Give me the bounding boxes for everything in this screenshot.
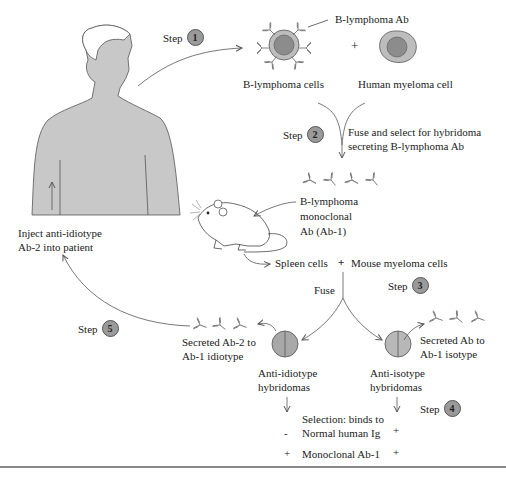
anti-idiotype-hybridoma-cell bbox=[272, 331, 298, 357]
secreted-isotype-line2: Ab-1 isotype bbox=[420, 348, 477, 361]
selection-heading: Selection: binds to bbox=[302, 413, 384, 426]
plus-sign-spleen: + bbox=[338, 256, 344, 269]
step-label: Step bbox=[163, 32, 183, 44]
human-myeloma-cell-label: Human myeloma cell bbox=[358, 78, 453, 91]
mouse-myeloma-label: Mouse myeloma cells bbox=[351, 257, 448, 270]
fuse-label: Fuse bbox=[314, 284, 335, 297]
patient-instruction-line1: Inject anti-idiotype bbox=[18, 227, 102, 240]
bottom-divider bbox=[0, 466, 506, 468]
monoclonal-line1: B-lymphoma bbox=[300, 195, 358, 208]
fuse-select-line2: secreting B-lymphoma Ab bbox=[348, 140, 464, 153]
anti-idiotype-line1: Anti-idiotype bbox=[258, 367, 317, 380]
secreted-ab2-line2: Ab-1 idiotype bbox=[182, 350, 243, 363]
hybridoma-anti-idiotype-diagram: Step 1 B-lymphoma Ab + B-lymphoma cells … bbox=[0, 0, 506, 479]
step-3: Step 3 bbox=[388, 277, 429, 294]
b-lymphoma-cell bbox=[257, 20, 328, 70]
anti-isotype-line1: Anti-isotype bbox=[370, 367, 425, 380]
anti-isotype-line2: hybridomas bbox=[370, 381, 422, 394]
fuse-select-line1: Fuse and select for hybridoma bbox=[348, 126, 481, 139]
patient-instruction-line2: Ab-2 into patient bbox=[18, 241, 93, 254]
step-number-badge: 4 bbox=[444, 400, 461, 417]
selection-row1-left: - bbox=[284, 427, 288, 440]
step-5: Step 5 bbox=[78, 320, 119, 337]
monoclonal-line3: Ab (Ab-1) bbox=[300, 225, 346, 238]
ab2-antibodies bbox=[193, 317, 248, 334]
patient-figure bbox=[32, 25, 180, 215]
secreted-ab2-line1: Secreted Ab-2 to bbox=[182, 336, 256, 349]
step-label: Step bbox=[420, 403, 440, 415]
b-lymphoma-cells-label: B-lymphoma cells bbox=[243, 78, 324, 91]
isotype-antibodies bbox=[429, 310, 486, 327]
monoclonal-line2: monoclonal bbox=[300, 210, 352, 223]
step-2: Step 2 bbox=[283, 126, 324, 143]
step-label: Step bbox=[78, 323, 98, 335]
selection-row2-left: + bbox=[284, 447, 290, 460]
anti-idiotype-line2: hybridomas bbox=[258, 381, 310, 394]
selection-row2-right: + bbox=[393, 446, 399, 459]
step-label: Step bbox=[388, 280, 408, 292]
step-4: Step 4 bbox=[420, 400, 461, 417]
human-myeloma-cell bbox=[380, 31, 417, 63]
step-number-badge: 5 bbox=[102, 320, 119, 337]
step-number-badge: 2 bbox=[307, 126, 324, 143]
b-lymphoma-ab-label: B-lymphoma Ab bbox=[335, 13, 409, 26]
mouse-figure bbox=[190, 200, 287, 252]
selection-row1-label: Normal human Ig bbox=[302, 427, 380, 440]
secreted-isotype-line1: Secreted Ab to bbox=[420, 334, 485, 347]
step-label: Step bbox=[283, 129, 303, 141]
step-number-badge: 3 bbox=[412, 277, 429, 294]
step-1: Step 1 bbox=[163, 29, 204, 46]
plus-sign: + bbox=[351, 39, 358, 52]
spleen-cells-label: Spleen cells bbox=[275, 257, 328, 270]
step-number-badge: 1 bbox=[187, 29, 204, 46]
selection-row1-right: + bbox=[393, 424, 399, 437]
selection-row2-label: Monoclonal Ab-1 bbox=[302, 448, 380, 461]
ab1-antibodies bbox=[303, 172, 382, 189]
